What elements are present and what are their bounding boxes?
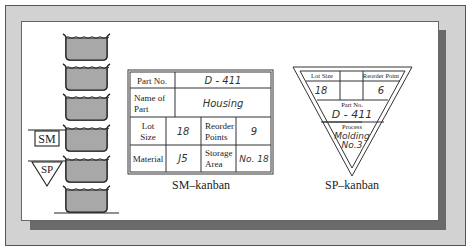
sp-label-part-no: Part No. — [341, 101, 363, 108]
sm-label-name-of: Name of — [134, 93, 165, 103]
sm-value-name: Housing — [203, 98, 244, 109]
sm-kanban-card: Part No. D - 411 Name of Part Housing Lo… — [128, 70, 273, 174]
sm-label-points: Points — [205, 132, 228, 142]
sp-value-part-no: D - 411 — [332, 108, 372, 121]
sp-value-lot-size: 18 — [315, 85, 328, 96]
bin-3 — [63, 94, 110, 120]
bin-2 — [63, 64, 110, 90]
kanban-diagram: SM SP Part No. D - 411 Name of Part Hous… — [0, 0, 472, 252]
sm-label-part-no: Part No. — [137, 76, 167, 86]
sm-value-part-no: D - 411 — [205, 75, 242, 86]
bin-1 — [63, 34, 110, 60]
sm-value-material: J5 — [176, 153, 187, 164]
sp-marker-label: SP — [41, 163, 53, 175]
sp-kanban-caption: SP–kanban — [325, 178, 379, 192]
sp-label-process: Process — [342, 123, 362, 130]
sp-value-process-line2: No.3 — [342, 140, 363, 150]
bin-6 — [63, 186, 110, 212]
bin-4 — [63, 125, 110, 151]
sp-label-lot-size: Lot Size — [311, 72, 333, 79]
sm-label-material: Material — [133, 154, 164, 164]
sm-marker: SM — [28, 130, 66, 146]
sm-label-reorder: Reorder — [205, 121, 234, 131]
sm-label-storage: Storage — [205, 148, 233, 158]
sm-label-size: Size — [140, 132, 156, 142]
sm-label-area: Area — [205, 159, 223, 169]
bin-5 — [63, 156, 110, 182]
sp-marker: SP — [28, 161, 66, 186]
sm-kanban-caption: SM–kanban — [172, 178, 230, 192]
sm-label-part: Part — [134, 104, 149, 114]
sm-value-lot-size: 18 — [177, 126, 190, 137]
sm-marker-label: SM — [38, 132, 56, 146]
sp-value-reorder-point: 6 — [378, 85, 384, 96]
sm-label-lot: Lot — [142, 121, 155, 131]
sm-value-storage-area: No. 18 — [239, 154, 269, 164]
sp-kanban-card: Lot Size 18 Reorder Point 6 Part No. D -… — [293, 67, 412, 176]
sp-label-reorder-point: Reorder Point — [363, 72, 399, 79]
sm-value-reorder-points: 9 — [251, 126, 257, 137]
bin-stack — [54, 34, 119, 213]
